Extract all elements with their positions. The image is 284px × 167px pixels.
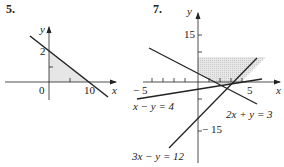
y-tick-label-top: 15 — [184, 28, 195, 40]
problem-number: 7. — [153, 2, 162, 17]
y-tick-label-bottom: − 15 — [202, 123, 222, 135]
graph-5 — [5, 26, 117, 100]
y-axis-label: y — [187, 5, 192, 17]
x-tick-label: 10 — [84, 84, 95, 96]
x-axis-label: x — [276, 84, 281, 96]
equation-label: x − y = 4 — [133, 100, 174, 112]
equation-label: 2x + y = 3 — [226, 108, 273, 120]
graph-7 — [137, 12, 281, 163]
x-tick-label-right: 5 — [247, 84, 253, 96]
x-axis-label: x — [112, 84, 117, 96]
origin-label: 0 — [39, 84, 45, 96]
problem-number: 5. — [6, 2, 15, 17]
y-tick-label: 2 — [40, 45, 46, 57]
y-axis-label: y — [40, 23, 45, 35]
x-tick-label-left: − 5 — [133, 84, 147, 96]
equation-label: 3x − y = 12 — [132, 150, 184, 162]
